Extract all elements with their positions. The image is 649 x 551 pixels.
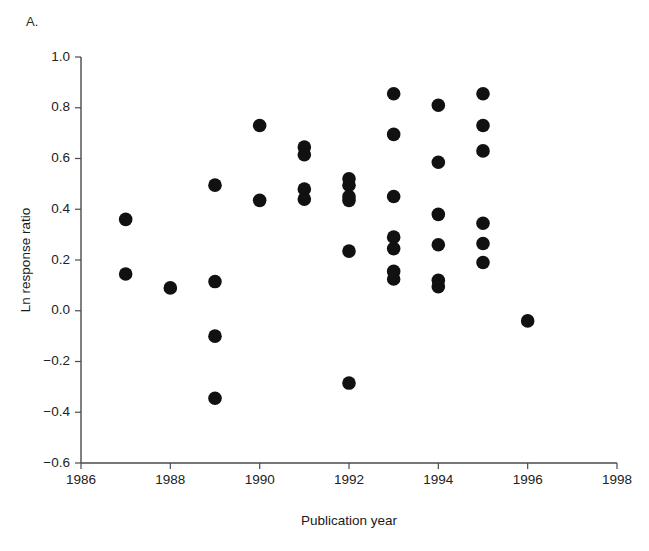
y-tick-label: −0.4 <box>43 404 70 419</box>
data-point <box>476 237 490 251</box>
y-axis-title: Ln response ratio <box>18 208 33 312</box>
data-point <box>119 213 133 227</box>
data-point <box>342 376 356 390</box>
data-point <box>476 256 490 270</box>
data-point <box>432 238 446 252</box>
data-point <box>208 275 222 289</box>
x-tick-label: 1996 <box>513 472 543 487</box>
data-point <box>119 267 133 281</box>
data-point-group <box>119 87 535 405</box>
x-tick-label: 1990 <box>245 472 275 487</box>
y-tick-label: −0.6 <box>43 455 70 470</box>
data-point <box>342 244 356 258</box>
data-point <box>387 272 401 286</box>
data-point <box>432 280 446 294</box>
x-tick-label: 1998 <box>602 472 632 487</box>
x-tick-label: 1994 <box>423 472 454 487</box>
y-tick-label: 0.8 <box>51 99 70 114</box>
data-point <box>208 391 222 405</box>
data-point <box>342 194 356 208</box>
x-axis-tick-group: 1986198819901992199419961998 <box>66 463 632 487</box>
data-point <box>432 98 446 112</box>
y-tick-label: 0.4 <box>51 201 70 216</box>
y-tick-label: 0.2 <box>51 252 70 267</box>
y-tick-label: 0.6 <box>51 150 70 165</box>
data-point <box>387 128 401 142</box>
data-point <box>208 178 222 192</box>
data-point <box>164 281 178 295</box>
scatter-plot-figure: −0.6−0.4−0.20.00.20.40.60.81.0 198619881… <box>0 0 649 551</box>
y-tick-label: 1.0 <box>51 49 70 64</box>
data-point <box>476 87 490 101</box>
y-tick-label: −0.2 <box>43 353 70 368</box>
x-tick-label: 1992 <box>334 472 364 487</box>
data-point <box>521 314 535 328</box>
data-point <box>476 216 490 230</box>
x-tick-label: 1986 <box>66 472 96 487</box>
data-point <box>253 119 267 133</box>
data-point <box>298 148 312 162</box>
plot-canvas: −0.6−0.4−0.20.00.20.40.60.81.0 198619881… <box>0 0 649 551</box>
y-tick-label: 0.0 <box>51 302 70 317</box>
x-tick-label: 1988 <box>155 472 185 487</box>
data-point <box>253 194 267 208</box>
data-point <box>476 144 490 158</box>
data-point <box>387 190 401 204</box>
data-point <box>432 208 446 222</box>
data-point <box>432 156 446 170</box>
data-point <box>476 119 490 133</box>
data-point <box>298 192 312 206</box>
data-point <box>208 329 222 343</box>
x-axis-title: Publication year <box>301 513 398 528</box>
data-point <box>387 87 401 101</box>
y-axis-tick-group: −0.6−0.4−0.20.00.20.40.60.81.0 <box>43 49 81 470</box>
data-point <box>387 242 401 256</box>
